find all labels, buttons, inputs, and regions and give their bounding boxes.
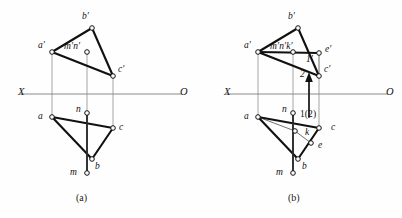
label-b-prime-b: b′ (288, 12, 295, 22)
label-c-b: c (331, 123, 335, 133)
node-m-b (291, 171, 296, 176)
node-e-b (309, 141, 314, 146)
frontal-triangle-a (52, 28, 113, 76)
figure-root: X O X O b′ a′ m′n′ c′ n a c b m b′ a′ m′… (0, 0, 402, 218)
node-a-b (256, 115, 261, 120)
caption-panel-b: (b) (288, 192, 300, 203)
node-a-prime-a (50, 50, 55, 55)
caption-panel-a: (a) (76, 192, 87, 203)
node-a-a (50, 115, 55, 120)
axis-label-o-b: O (386, 87, 394, 98)
label-n-a: n (76, 105, 81, 115)
label-m-a: m (70, 168, 77, 178)
label-mnk-prime-b: m′n′k′ (270, 42, 293, 52)
label-a-prime-a: a′ (38, 41, 45, 51)
label-two-prime-b: 2′ (300, 70, 307, 80)
label-c-prime-b: c′ (324, 65, 331, 75)
horizontal-triangle-b (258, 117, 319, 159)
label-b-prime-a: b′ (82, 12, 89, 22)
label-mn-prime-a: m′n′ (64, 42, 80, 52)
node-e-prime-b (317, 51, 322, 56)
label-c-a: c (119, 123, 123, 133)
node-k-b (293, 129, 298, 134)
node-mn-prime-a (85, 50, 90, 55)
label-n-b: n (282, 105, 287, 115)
label-a-a: a (38, 112, 43, 122)
label-e-b: e (318, 141, 322, 151)
node-b-a (90, 157, 95, 162)
node-c-prime-b (317, 74, 322, 79)
node-a-prime-b (256, 50, 261, 55)
node-b-prime-b (296, 26, 301, 31)
node-b-prime-a (90, 26, 95, 31)
projection-drawing-canvas (0, 0, 402, 218)
node-n-a (85, 111, 90, 116)
label-a-b: a (244, 112, 249, 122)
label-one-prime-b: 1′ (306, 55, 313, 65)
label-m-b: m (276, 168, 283, 178)
axis-label-o-a: O (180, 87, 188, 98)
node-c-prime-a (111, 74, 116, 79)
frontal-line-ae-prime (258, 52, 319, 53)
label-one-two-b: 1(2) (300, 110, 316, 120)
node-m-a (85, 171, 90, 176)
node-c-a (111, 126, 116, 131)
axis-label-x-b: X (224, 87, 231, 98)
node-n-b (291, 111, 296, 116)
label-e-prime-b: e′ (325, 45, 332, 55)
label-a-prime-b: a′ (244, 41, 251, 51)
axis-label-x-a: X (18, 87, 25, 98)
node-b-b (296, 157, 301, 162)
node-c-b (317, 126, 322, 131)
label-b-a: b (95, 162, 100, 172)
label-b-b: b (302, 162, 307, 172)
horizontal-triangle-a (52, 117, 113, 159)
label-c-prime-a: c′ (118, 65, 125, 75)
label-k-b: k (305, 128, 309, 138)
